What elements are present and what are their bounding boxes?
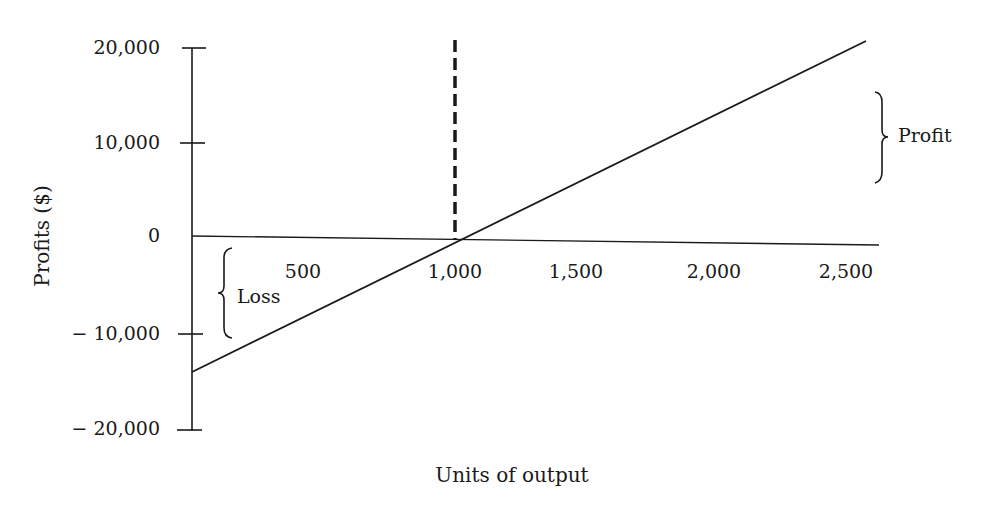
loss-brace-icon: [218, 248, 232, 338]
y-tick-label: 10,000: [0, 133, 160, 152]
x-tick-label: 2,500: [819, 262, 873, 281]
x-tick-label: 1,500: [549, 262, 603, 281]
x-axis-title: Units of output: [435, 463, 588, 487]
y-axis-title: Profits ($): [30, 185, 54, 286]
x-tick-label: 500: [285, 262, 321, 281]
y-tick-label: 20,000: [0, 38, 160, 57]
y-tick-label: 0: [0, 226, 160, 245]
y-tick-label: − 10,000: [0, 324, 160, 343]
profit-line: [192, 41, 866, 372]
profit-brace-icon: [875, 92, 888, 183]
loss-label: Loss: [237, 287, 281, 306]
x-tick-label: 1,000: [428, 262, 482, 281]
x-tick-label: 2,000: [687, 262, 741, 281]
profit-label: Profit: [898, 126, 952, 145]
x-axis-zero-line: [192, 236, 879, 245]
y-tick-label: − 20,000: [0, 419, 160, 438]
